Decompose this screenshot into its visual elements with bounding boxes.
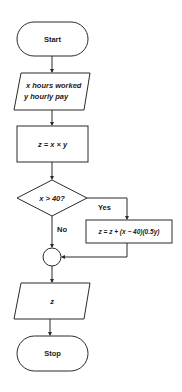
overtime-label: z = z + (x − 40)(0.5y) [98, 228, 160, 236]
no-label: No [57, 225, 67, 234]
flowchart: Start x hours worked y hourly pay z = x … [0, 0, 182, 392]
arrow-head-icon [50, 279, 54, 283]
arrow-head-icon [125, 216, 129, 220]
decision-label: x > 40? [38, 194, 65, 203]
compute-label: z = x × y [37, 140, 68, 149]
arrow-head-icon [50, 244, 54, 248]
output-label: z [49, 297, 54, 306]
merge-connector [43, 248, 61, 266]
input-label-line1: x hours worked [25, 81, 82, 90]
arrow-head-icon [50, 176, 54, 180]
arrow-head-icon [50, 69, 54, 73]
stop-terminal: Stop [17, 336, 88, 371]
arrow-head-icon [48, 332, 52, 336]
flow-line-overtime-merge [62, 243, 127, 257]
arrow-head-icon [61, 255, 65, 259]
merge-connector-shape [43, 248, 61, 266]
yes-label: Yes [98, 203, 111, 212]
overtime-process: z = z + (x − 40)(0.5y) [86, 220, 172, 243]
input-label-line2: y hourly pay [23, 92, 69, 101]
compute-process: z = x × y [17, 126, 88, 162]
input-parallelogram: x hours worked y hourly pay [14, 73, 90, 110]
arrow-head-icon [50, 122, 54, 126]
start-label: Start [44, 35, 62, 44]
start-terminal: Start [17, 22, 88, 56]
output-parallelogram: z [14, 283, 90, 319]
stop-label: Stop [44, 349, 61, 358]
